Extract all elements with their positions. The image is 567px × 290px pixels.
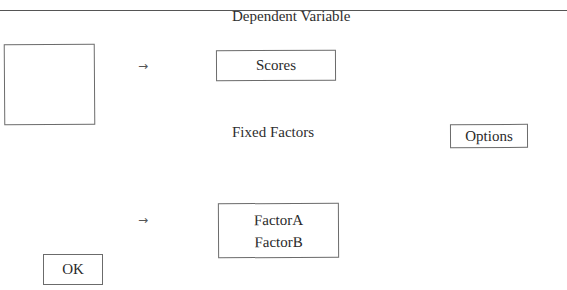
fixed-factor-item[interactable]: FactorA bbox=[254, 208, 303, 230]
fixed-factors-list[interactable]: FactorA FactorB bbox=[218, 203, 339, 259]
move-to-dependent-arrow-icon[interactable]: → bbox=[138, 59, 148, 73]
ok-button[interactable]: OK bbox=[43, 254, 103, 285]
dependent-variable-field[interactable]: Scores bbox=[216, 50, 336, 82]
source-variable-list[interactable] bbox=[4, 44, 96, 126]
dependent-variable-value: Scores bbox=[256, 57, 296, 74]
fixed-factor-item[interactable]: FactorB bbox=[254, 230, 302, 252]
options-button[interactable]: Options bbox=[450, 124, 528, 148]
move-to-fixed-factors-arrow-icon[interactable]: → bbox=[138, 213, 148, 227]
dependent-variable-label: Dependent Variable bbox=[232, 8, 350, 25]
fixed-factors-label: Fixed Factors bbox=[232, 124, 314, 141]
